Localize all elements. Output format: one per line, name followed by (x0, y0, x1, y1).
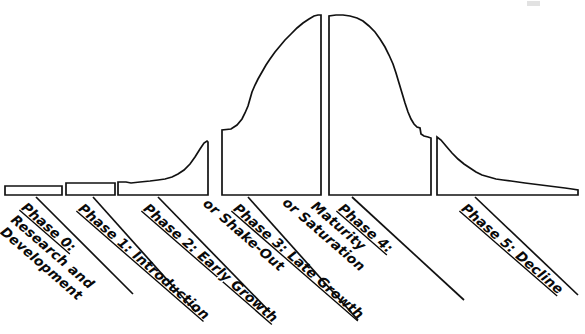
phase-4-shape (329, 15, 431, 195)
phase-5-shape (437, 137, 578, 195)
phase-3-shape (222, 15, 321, 195)
leader-line-phase-4 (352, 197, 464, 300)
phase-1-shape (66, 183, 115, 195)
industry-life-cycle-diagram: Phase 0: Research and Development Phase … (0, 0, 585, 334)
phase-5-label: Phase 5: Decline (459, 200, 567, 297)
phase-1-label: Phase 1: Introduction (76, 200, 214, 323)
phase-2-shape (118, 141, 208, 195)
phase-5-label-line-0: Phase 5: Decline (459, 200, 567, 297)
life-cycle-curve-canvas: Phase 0: Research and Development Phase … (0, 0, 585, 334)
phase-0-shape (5, 186, 62, 195)
phase-1-label-line-0: Phase 1: Introduction (76, 200, 214, 323)
